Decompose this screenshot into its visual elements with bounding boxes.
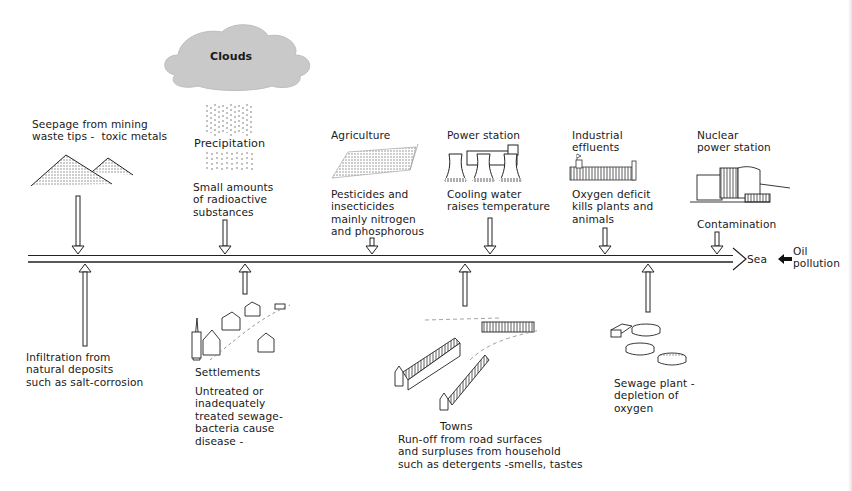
arrow-down-power (484, 218, 496, 254)
industrial-description: Oxygen deficit kills plants and animals (572, 188, 653, 225)
sewage-tanks-icon (611, 324, 686, 365)
towns-title: Towns (440, 420, 473, 432)
industrial-title: Industrial effluents (572, 129, 623, 154)
arrow-up-towns (459, 264, 471, 306)
field-icon (332, 144, 418, 178)
arrow-down-agriculture (366, 238, 378, 254)
arrow-down-precipitation (219, 220, 231, 254)
precipitation-description: Small amounts of radioactive substances (193, 181, 273, 218)
infiltration-description: Infiltration from natural deposits such … (26, 351, 143, 388)
sea-label: Sea (747, 253, 767, 265)
arrow-down-mining (72, 196, 84, 254)
cooling-tower-icon (445, 145, 521, 182)
power-station-title: Power station (447, 129, 520, 141)
page-edge-shadow (848, 0, 852, 491)
precipitation-title: Precipitation (194, 138, 265, 150)
nuclear-description: Contamination (697, 218, 776, 230)
arrow-up-settlements (239, 264, 251, 294)
arrow-down-industrial (599, 228, 611, 254)
cloud-label: Clouds (210, 51, 252, 63)
nuclear-title: Nuclear power station (697, 129, 771, 154)
towns-description: Run-off from road surfaces and surpluses… (398, 433, 583, 470)
river-channel (28, 248, 746, 270)
up-arrows (79, 264, 654, 346)
mining-title: Seepage from mining waste tips - toxic m… (32, 118, 167, 143)
village-icon (192, 302, 290, 360)
power-station-description: Cooling water raises temperature (447, 188, 550, 213)
settlements-description: Untreated or inadequately treated sewage… (195, 385, 283, 447)
agriculture-title: Agriculture (331, 129, 390, 141)
arrow-down-nuclear (711, 232, 723, 254)
sewage-plant-description: Sewage plant - depletion of oxygen (614, 377, 695, 414)
arrow-up-infiltration (79, 264, 91, 346)
black-arrow-left-icon (778, 254, 792, 264)
factory-icon (570, 154, 636, 180)
town-icon (395, 318, 540, 410)
oil-pollution-label: Oil pollution (793, 245, 840, 270)
settlements-title: Settlements (195, 366, 260, 378)
spoil-heap-icon (31, 155, 133, 186)
nuclear-plant-icon (690, 167, 790, 202)
agriculture-description: Pesticides and insecticides mainly nitro… (331, 188, 424, 238)
arrow-up-sewage (642, 264, 654, 312)
diagram-canvas (0, 0, 852, 491)
